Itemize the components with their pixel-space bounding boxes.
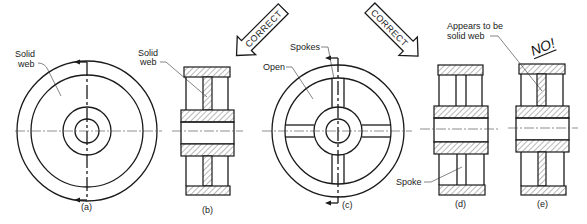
- view-c: Spokes Open (c): [262, 42, 412, 210]
- view-d: Spoke (d): [396, 65, 498, 209]
- label-appears: Appears to be: [447, 21, 503, 31]
- label-open: Open: [263, 62, 285, 72]
- web-top: [203, 77, 212, 110]
- rim-bottom: [439, 185, 485, 195]
- hub-top: [181, 110, 234, 122]
- label-spoke: Spoke: [396, 177, 422, 187]
- rim-bottom: [186, 186, 230, 195]
- caption-d: (d): [455, 199, 466, 209]
- correct-arrow-2: CORRECT: [361, 0, 427, 65]
- rim-bottom: [521, 186, 566, 195]
- view-b: Solid web (b): [138, 48, 243, 215]
- rim-top: [184, 67, 230, 77]
- hub-top: [516, 106, 569, 118]
- caption-c: (c): [342, 200, 353, 210]
- no-warning: NO!: [528, 35, 557, 59]
- arrow-head-icon: [74, 60, 80, 65]
- hub-bottom: [434, 142, 488, 154]
- view-a: Solid web (a): [15, 49, 162, 212]
- caption-b: (b): [202, 205, 213, 215]
- hub-bottom: [181, 144, 234, 156]
- label-solid-web: solid web: [447, 31, 485, 41]
- arrow-head-icon: [74, 198, 80, 203]
- correct-label: CORRECT: [243, 8, 284, 49]
- arrow-head-icon: [325, 201, 331, 206]
- web-bottom: [203, 156, 212, 186]
- bore: [516, 118, 569, 140]
- hub-bottom: [516, 140, 569, 152]
- leader-line: [424, 167, 462, 182]
- correct-label: CORRECT: [369, 8, 410, 49]
- hub-top: [434, 106, 488, 118]
- bore: [434, 118, 488, 142]
- label-spokes: Spokes: [290, 42, 321, 52]
- pulley-section-diagram: Solid web (a) Solid web (b) CORRECT: [0, 0, 587, 224]
- leader-line: [321, 47, 334, 79]
- rim-top: [519, 64, 565, 74]
- label-web: web: [17, 59, 35, 69]
- caption-a: (a): [81, 202, 92, 212]
- caption-e: (e): [537, 199, 548, 209]
- label-web: web: [139, 57, 157, 67]
- correct-arrow-1: CORRECT: [227, 0, 292, 65]
- bore: [181, 122, 234, 144]
- rim-top: [438, 65, 483, 75]
- label-solid: Solid: [15, 49, 35, 59]
- web-bottom: [538, 152, 546, 186]
